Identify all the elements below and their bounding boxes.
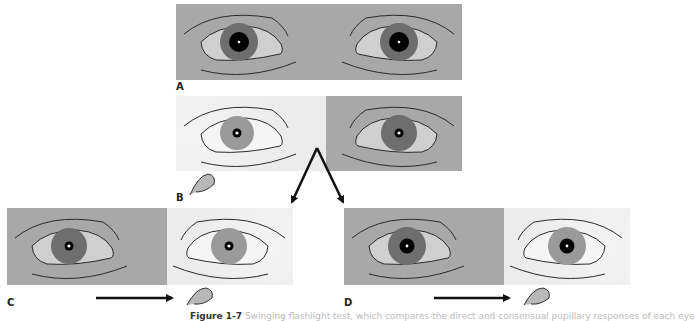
finger-icon [190, 174, 214, 195]
panel-c-label: C [7, 297, 14, 308]
panel-a-illustration [176, 4, 462, 80]
panel-c-illustration [7, 208, 293, 285]
finger-icon [187, 288, 212, 305]
panel-b-label: B [176, 192, 184, 203]
panel-c [7, 208, 293, 285]
finger-icon [524, 288, 549, 305]
panel-a-label: A [176, 81, 184, 92]
panel-a [176, 4, 462, 80]
panel-b [176, 96, 462, 171]
caption-text: Swinging flashlight test, which compares… [242, 311, 694, 321]
panel-b-illustration [176, 96, 462, 171]
panel-d-label: D [344, 297, 352, 308]
caption-figure-number: Figure 1-7 [190, 311, 242, 321]
panel-d-illustration [344, 208, 630, 285]
figure-caption: Figure 1-7 Swinging flashlight test, whi… [190, 311, 695, 321]
panel-d [344, 208, 630, 285]
